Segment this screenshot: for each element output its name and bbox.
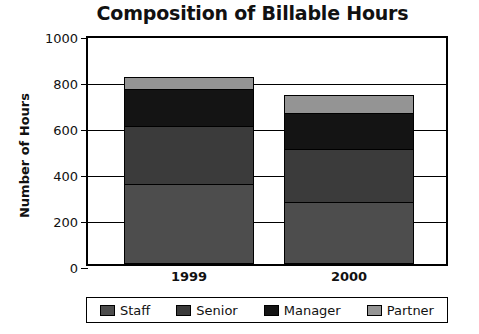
y-axis-tick-label: 0: [70, 261, 78, 276]
y-axis-tick: [81, 130, 88, 131]
legend-label: Staff: [120, 303, 150, 318]
bar-segment-partner[interactable]: [124, 77, 254, 90]
y-axis-tick-label: 800: [53, 77, 78, 92]
legend-label: Partner: [387, 303, 434, 318]
plot-area: 0200400600800100019992000: [86, 36, 448, 266]
bar-segment-manager[interactable]: [124, 89, 254, 126]
chart-title: Composition of Billable Hours: [0, 2, 479, 24]
legend-item-senior[interactable]: Senior: [176, 303, 237, 318]
y-axis-tick: [81, 84, 88, 85]
legend-label: Senior: [196, 303, 237, 318]
bar-segment-partner[interactable]: [284, 95, 414, 113]
y-axis-tick: [81, 222, 88, 223]
bar-1999[interactable]: [124, 77, 254, 264]
y-axis-tick: [81, 38, 88, 39]
y-axis-tick-label: 1000: [45, 31, 78, 46]
legend-swatch-icon: [264, 305, 279, 316]
y-axis-tick-label: 400: [53, 169, 78, 184]
x-axis-tick-label: 1999: [124, 269, 254, 284]
chart-legend: StaffSeniorManagerPartner: [86, 297, 448, 323]
y-axis-tick: [81, 268, 88, 269]
legend-swatch-icon: [176, 305, 191, 316]
x-axis-tick-label: 2000: [284, 269, 414, 284]
legend-item-staff[interactable]: Staff: [100, 303, 150, 318]
bar-segment-staff[interactable]: [284, 202, 414, 264]
legend-swatch-icon: [100, 305, 115, 316]
legend-item-manager[interactable]: Manager: [264, 303, 341, 318]
legend-item-partner[interactable]: Partner: [367, 303, 434, 318]
y-axis-tick: [81, 176, 88, 177]
y-axis-tick-label: 600: [53, 123, 78, 138]
y-axis-label: Number of Hours: [17, 76, 32, 236]
bar-segment-staff[interactable]: [124, 184, 254, 265]
legend-label: Manager: [284, 303, 341, 318]
y-axis-tick-label: 200: [53, 215, 78, 230]
bar-segment-senior[interactable]: [124, 126, 254, 184]
bar-segment-senior[interactable]: [284, 149, 414, 202]
bar-segment-manager[interactable]: [284, 113, 414, 149]
bar-2000[interactable]: [284, 95, 414, 264]
chart-container: Composition of Billable Hours Number of …: [0, 0, 479, 334]
legend-swatch-icon: [367, 305, 382, 316]
